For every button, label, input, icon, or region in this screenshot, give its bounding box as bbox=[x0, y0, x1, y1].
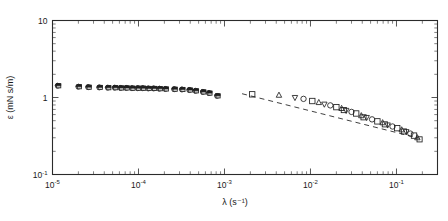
data-point-plateau-sq-cap bbox=[216, 94, 220, 96]
data-point-branch-circle bbox=[328, 103, 333, 108]
data-point-plateau-sq-cap bbox=[181, 87, 185, 89]
data-point-plateau-sq-cap bbox=[125, 86, 129, 88]
data-point-branch-triangle-up bbox=[276, 92, 281, 97]
data-point-plateau-sq-cap bbox=[114, 86, 118, 88]
data-point-plateau-sq-cap bbox=[188, 88, 192, 90]
data-point-plateau-sq-cap bbox=[173, 87, 177, 89]
data-point-branch-square bbox=[310, 98, 315, 103]
data-point-plateau-sq-cap bbox=[120, 86, 124, 88]
data-point-plateau-sq-cap bbox=[98, 85, 102, 87]
x-tick-label: 10-2 bbox=[303, 179, 318, 189]
data-point-plateau-sq-cap bbox=[202, 90, 206, 92]
y-axis-title: ε (mN s/m) bbox=[5, 76, 15, 120]
data-point-branch-circle bbox=[408, 131, 413, 136]
data-point-branch-square bbox=[334, 104, 339, 109]
y-tick-label: 1 bbox=[43, 93, 48, 103]
data-point-branch-triangle-down bbox=[292, 95, 297, 100]
fit-dashed-line bbox=[242, 94, 419, 139]
data-point-plateau-sq-cap bbox=[208, 91, 212, 93]
data-point-plateau-sq-cap bbox=[164, 87, 168, 89]
y-tick-label: 10-1 bbox=[33, 170, 48, 180]
data-point-branch-triangle-down bbox=[322, 102, 327, 107]
data-point-branch-triangle-up bbox=[316, 99, 321, 104]
data-point-branch-circle bbox=[369, 117, 374, 122]
x-tick-label: 10-4 bbox=[131, 179, 146, 189]
x-tick-label: 10-5 bbox=[45, 179, 60, 189]
data-point-plateau-sq-cap bbox=[131, 86, 135, 88]
data-point-plateau-sq-cap bbox=[142, 86, 146, 88]
data-point-plateau-sq-cap bbox=[87, 85, 91, 87]
data-point-plateau-sq-cap bbox=[158, 87, 162, 89]
data-point-plateau-sq-cap bbox=[77, 85, 81, 87]
x-tick-label: 10-1 bbox=[389, 179, 404, 189]
plot-frame bbox=[53, 21, 438, 175]
data-point-plateau-sq-cap bbox=[107, 86, 111, 88]
data-point-branch-square bbox=[375, 119, 380, 124]
x-tick-label: 10-3 bbox=[217, 179, 232, 189]
data-point-plateau-sq-cap bbox=[57, 84, 61, 86]
x-axis-title: λ (s⁻¹) bbox=[222, 197, 248, 207]
data-point-plateau-sq-cap bbox=[194, 89, 198, 91]
plot-svg: 10-510-410-310-210-110110-1λ (s⁻¹)ε (mN … bbox=[0, 0, 448, 221]
data-point-plateau-sq-cap bbox=[153, 86, 157, 88]
data-point-branch-circle bbox=[301, 96, 306, 101]
figure-panel: 10-510-410-310-210-110110-1λ (s⁻¹)ε (mN … bbox=[0, 0, 448, 221]
y-tick-label: 10 bbox=[38, 16, 48, 26]
